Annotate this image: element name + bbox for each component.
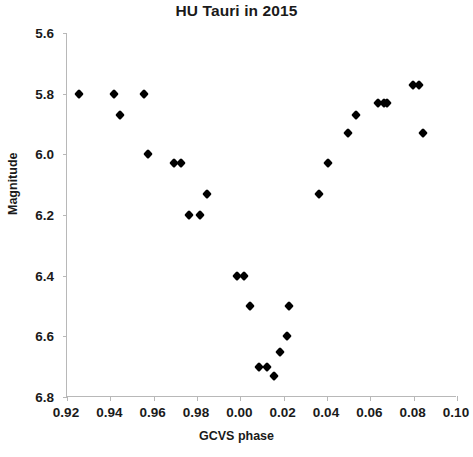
y-axis-label: Magnitude — [6, 153, 20, 216]
data-point — [143, 149, 153, 159]
data-point — [269, 371, 279, 381]
data-point — [262, 362, 272, 372]
x-axis-tick — [240, 396, 241, 401]
chart-figure: HU Tauri in 2015 5.65.86.06.26.46.66.8 0… — [0, 0, 473, 457]
x-axis-tick — [197, 396, 198, 401]
data-point — [414, 80, 424, 90]
data-point — [351, 110, 361, 120]
data-point — [139, 89, 149, 99]
y-axis-tick-label: 5.6 — [0, 26, 54, 41]
data-point — [109, 89, 119, 99]
x-axis-tick — [284, 396, 285, 401]
y-axis-tick — [63, 154, 67, 155]
y-axis-tick-label: 6.8 — [0, 390, 54, 405]
x-axis-tick — [67, 396, 68, 401]
data-point — [184, 210, 194, 220]
data-point — [284, 301, 294, 311]
data-point — [275, 347, 285, 357]
x-axis-tick — [457, 396, 458, 401]
y-axis-tick — [63, 94, 67, 95]
x-axis-tick — [414, 396, 415, 401]
x-axis-label: GCVS phase — [0, 429, 473, 443]
data-point — [323, 158, 333, 168]
x-axis-tick-label: 0.06 — [339, 405, 399, 420]
y-axis-tick — [63, 336, 67, 337]
y-axis-tick-label: 6.4 — [0, 268, 54, 283]
x-axis-tick-label: 0.98 — [166, 405, 226, 420]
data-point — [343, 128, 353, 138]
data-point — [195, 210, 205, 220]
y-axis-tick — [63, 276, 67, 277]
x-axis-tick-label: 0.08 — [383, 405, 443, 420]
plot-area — [66, 33, 456, 397]
x-axis-tick-label: 0.92 — [36, 405, 96, 420]
x-axis-tick — [370, 396, 371, 401]
x-axis-tick — [327, 396, 328, 401]
x-axis-tick — [110, 396, 111, 401]
y-axis-tick — [63, 215, 67, 216]
x-axis-tick-label: 0.02 — [253, 405, 313, 420]
y-axis-tick — [63, 33, 67, 34]
data-point — [245, 301, 255, 311]
y-axis-tick-label: 5.8 — [0, 86, 54, 101]
x-axis-tick — [154, 396, 155, 401]
x-axis-tick-label: 0.04 — [296, 405, 356, 420]
data-point — [418, 128, 428, 138]
data-point — [282, 331, 292, 341]
data-point — [202, 189, 212, 199]
page-title: HU Tauri in 2015 — [0, 2, 473, 20]
y-axis-tick-label: 6.6 — [0, 329, 54, 344]
data-point — [314, 189, 324, 199]
x-axis-tick-label: 0.96 — [123, 405, 183, 420]
x-axis-tick-label: 0.00 — [209, 405, 269, 420]
x-axis-tick-label: 0.94 — [79, 405, 139, 420]
x-axis-tick-label: 0.10 — [426, 405, 473, 420]
data-point — [74, 89, 84, 99]
data-point — [115, 110, 125, 120]
data-point — [176, 158, 186, 168]
data-point — [239, 271, 249, 281]
